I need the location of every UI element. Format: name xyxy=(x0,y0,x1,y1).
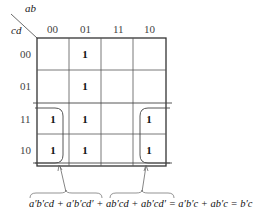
kmap-cell: 1 xyxy=(37,144,69,156)
kmap-cell: 1 xyxy=(69,113,101,125)
column-variable-label: ab xyxy=(25,2,36,14)
column-header: 00 xyxy=(47,23,58,35)
row-variable-label: cd xyxy=(11,24,21,36)
simplification-equation: a′b′cd + a′b′cd′ + ab′cd + ab′cd′ = a′b′… xyxy=(29,198,252,209)
kmap-grid-lines xyxy=(0,0,261,220)
kmap-cell: 1 xyxy=(37,113,69,125)
row-header: 10 xyxy=(20,144,31,156)
row-header: 00 xyxy=(20,48,31,60)
kmap-cell: 1 xyxy=(69,144,101,156)
kmap-cell: 1 xyxy=(133,113,165,125)
column-header: 10 xyxy=(144,23,155,35)
kmap-cell: 1 xyxy=(69,80,101,92)
kmap-cell: 1 xyxy=(69,48,101,60)
column-header: 11 xyxy=(113,23,124,35)
row-header: 11 xyxy=(20,113,31,125)
column-header: 01 xyxy=(80,23,91,35)
kmap-cell: 1 xyxy=(133,144,165,156)
row-header: 01 xyxy=(20,80,31,92)
